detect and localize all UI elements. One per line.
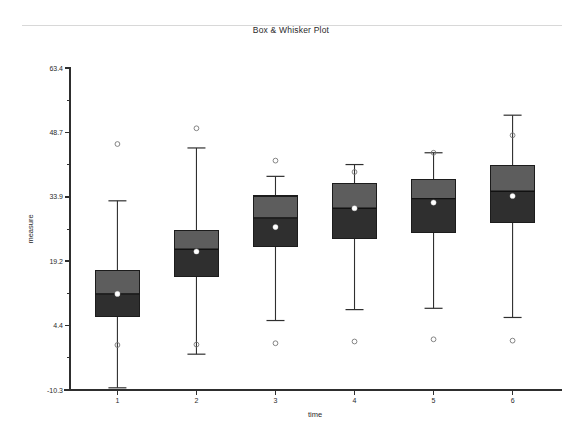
- x-tick-label: 4: [353, 397, 357, 404]
- box-group-1: [95, 142, 139, 388]
- y-tick-label: 48.7: [49, 129, 63, 136]
- box-upper-half: [253, 196, 297, 218]
- box-lower-half: [95, 294, 139, 316]
- box-group-3: [253, 158, 297, 345]
- box-upper-half: [174, 231, 218, 250]
- y-tick-label: 63.4: [49, 65, 63, 72]
- box-upper-half: [412, 180, 456, 199]
- x-tick-label: 1: [115, 397, 119, 404]
- box-group-2: [174, 126, 218, 354]
- outlier-point: [352, 339, 357, 344]
- y-tick-label: 19.2: [49, 258, 63, 265]
- outlier-point: [115, 142, 120, 147]
- y-tick-label: -10.3: [47, 387, 63, 394]
- mean-marker: [115, 291, 120, 296]
- box-lower-half: [333, 208, 377, 239]
- x-axis-title: time: [308, 410, 322, 419]
- y-tick-label: 4.4: [53, 322, 63, 329]
- mean-marker: [194, 249, 199, 254]
- box-group-6: [491, 115, 535, 343]
- box-lower-half: [253, 218, 297, 246]
- outlier-point: [510, 338, 515, 343]
- mean-marker: [352, 206, 357, 211]
- box-group-5: [412, 150, 456, 341]
- x-tick-label: 2: [194, 397, 198, 404]
- chart-page: Box & Whisker Plot 63.448.733.919.24.4-1…: [0, 0, 582, 433]
- x-tick-label: 6: [511, 397, 515, 404]
- box-group-4: [333, 165, 377, 344]
- mean-marker: [431, 200, 436, 205]
- outlier-point: [273, 158, 278, 163]
- x-tick-label: 5: [432, 397, 436, 404]
- x-tick-label: 3: [274, 397, 278, 404]
- y-axis-title: measure: [26, 214, 35, 243]
- outlier-point: [431, 337, 436, 342]
- box-whisker-plot: 63.448.733.919.24.4-10.3measure123456tim…: [0, 0, 582, 433]
- box-upper-half: [491, 166, 535, 191]
- y-tick-label: 33.9: [49, 193, 63, 200]
- box-upper-half: [95, 271, 139, 294]
- outlier-point: [273, 341, 278, 346]
- mean-marker: [510, 193, 515, 198]
- outlier-point: [194, 126, 199, 131]
- box-upper-half: [333, 183, 377, 208]
- mean-marker: [273, 224, 278, 229]
